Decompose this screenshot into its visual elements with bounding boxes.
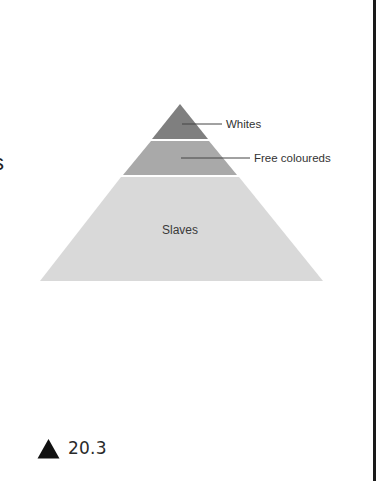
- label-slaves: Slaves: [162, 223, 198, 237]
- stat-indicator: 20.3: [37, 437, 107, 459]
- pyramid-level-whites: [152, 104, 208, 139]
- label-free-coloureds: Free coloureds: [254, 152, 331, 164]
- stat-value: 20.3: [68, 440, 107, 457]
- label-whites: Whites: [226, 118, 261, 130]
- triangle-up-icon: [37, 438, 60, 459]
- page: s Whites Free coloureds Slaves 20.3: [0, 0, 379, 481]
- social-pyramid-diagram: Whites Free coloureds Slaves: [0, 0, 379, 481]
- frame-border-right: [373, 0, 376, 481]
